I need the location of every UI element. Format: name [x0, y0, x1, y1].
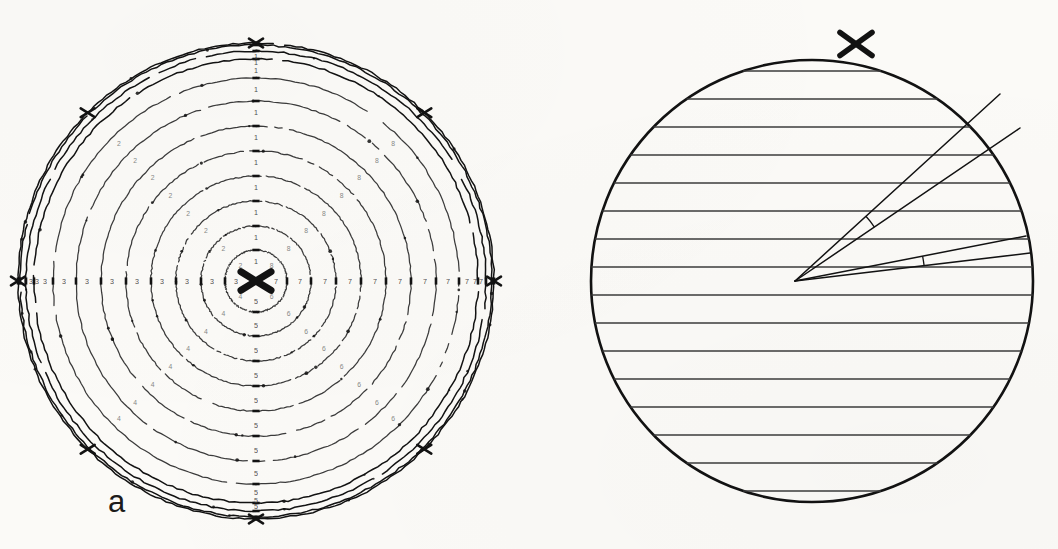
ring-data-point — [332, 258, 334, 260]
ring-data-point — [156, 315, 158, 317]
ring-data-point — [367, 139, 371, 143]
sector-digit-label: 3 — [43, 277, 47, 286]
ring-data-point — [461, 398, 463, 400]
ring-data-point — [81, 174, 84, 177]
ring-data-point — [347, 499, 350, 502]
ring-data-point — [61, 415, 63, 417]
ring-data-point — [136, 92, 140, 96]
ring-data-point — [184, 114, 187, 117]
sector-digit-label: 7 — [298, 277, 302, 286]
sector-digit-label: 1 — [254, 52, 258, 61]
sector-digit-label: 8 — [287, 245, 291, 252]
ring-data-point — [379, 318, 382, 321]
ring-data-point — [426, 387, 430, 391]
ray-upper-outer — [795, 94, 1000, 281]
sector-digit-label: 8 — [375, 157, 379, 164]
figure-page: 1111111111122222222333333333334444444455… — [0, 0, 1058, 549]
horizontal-trace-lines — [591, 71, 1032, 491]
sector-digit-label: 4 — [239, 293, 243, 300]
ring-data-point — [20, 238, 23, 241]
ring-data-point — [85, 219, 87, 221]
ring-data-point — [228, 514, 231, 517]
ring-data-point — [24, 220, 28, 224]
center-cross — [241, 272, 271, 291]
sector-digit-label: 7 — [446, 277, 450, 286]
sector-digit-label: 2 — [133, 157, 137, 164]
sector-digit-label: 6 — [340, 363, 344, 370]
ring-data-point — [200, 161, 203, 164]
sector-digit-label: 1 — [254, 108, 258, 117]
ring-data-point — [416, 157, 418, 159]
sector-digit-label: 3 — [85, 277, 89, 286]
angle-ray-group — [795, 94, 1030, 281]
sector-digit-label: 7 — [274, 277, 278, 286]
sector-digit-label: 3 — [135, 277, 139, 286]
ring-data-point — [107, 327, 110, 330]
ring-data-point — [235, 433, 238, 436]
ring-data-point — [180, 250, 183, 253]
sector-digit-label: 4 — [151, 381, 155, 388]
ring-data-point — [248, 125, 250, 127]
ring-data-point — [130, 77, 133, 80]
ring-data-point — [29, 350, 32, 353]
sector-digit-label: 3 — [234, 277, 238, 286]
sector-digit-label: 6 — [322, 345, 326, 352]
panel-b: b — [530, 0, 1058, 549]
ring-data-point — [131, 320, 133, 322]
ring-data-point — [340, 378, 342, 380]
ring-data-point — [296, 316, 298, 318]
ring-data-point — [304, 371, 308, 375]
ring-data-point — [262, 150, 265, 153]
ring-data-point — [328, 249, 332, 253]
lower-angle-arc — [923, 256, 924, 265]
sector-digit-label: 1 — [254, 257, 258, 266]
ring-data-point — [283, 508, 286, 511]
panel-a-label: a — [108, 486, 125, 517]
ring-data-point — [455, 311, 457, 313]
sector-digit-label: 7 — [479, 277, 483, 286]
ring-data-point — [203, 299, 206, 302]
sector-digit-label: 2 — [222, 245, 226, 252]
sector-digit-label: 7 — [465, 277, 469, 286]
sector-digit-label: 5 — [254, 346, 258, 355]
sector-digit-label: 5 — [254, 297, 258, 306]
ring-data-point — [152, 299, 154, 301]
ring-data-point — [463, 389, 467, 393]
ring-data-point — [225, 234, 227, 236]
ring-data-point — [404, 237, 407, 240]
sector-digit-label: 8 — [340, 192, 344, 199]
sector-digit-label: 5 — [254, 321, 258, 330]
sector-digit-label: 8 — [391, 140, 395, 147]
sector-digit-label: 2 — [151, 174, 155, 181]
ring-data-point — [111, 337, 115, 341]
sector-digit-label: 8 — [322, 210, 326, 217]
sector-digit-label: 4 — [117, 415, 121, 422]
ring-data-point — [38, 228, 42, 232]
ring-data-point — [398, 423, 401, 426]
ring-data-point — [452, 147, 455, 150]
ring-data-point — [488, 323, 491, 326]
pole-x-marker — [840, 32, 872, 55]
sector-digit-label: 3 — [185, 277, 189, 286]
sector-digit-label: 5 — [254, 371, 258, 380]
ring-data-point — [251, 99, 254, 102]
sector-digit-label: 2 — [169, 192, 173, 199]
ring-data-point — [34, 368, 37, 371]
sector-digit-label: 6 — [357, 381, 361, 388]
sector-digit-label: 7 — [373, 277, 377, 286]
ring-data-point — [21, 312, 24, 315]
sector-digit-label: 4 — [222, 310, 226, 317]
sector-digit-label: 1 — [254, 133, 258, 142]
ring-data-point — [303, 305, 307, 309]
ring-data-point — [282, 499, 286, 503]
sector-digit-label: 1 — [254, 233, 258, 242]
panel-b-diagram — [530, 0, 1058, 549]
sector-digit-label: 1 — [254, 158, 258, 167]
sector-digit-label: 1 — [254, 183, 258, 192]
sector-digit-label: 8 — [270, 262, 274, 269]
ring-data-point — [346, 330, 350, 334]
sector-digit-label: 1 — [254, 208, 258, 217]
sector-digit-label: 3 — [62, 277, 66, 286]
sector-digit-label: 2 — [239, 262, 243, 269]
ring-data-point — [291, 352, 293, 354]
